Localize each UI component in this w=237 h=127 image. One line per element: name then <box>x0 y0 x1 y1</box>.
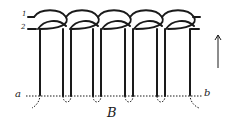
point-label-b: b <box>204 88 210 98</box>
vertical-cords <box>40 29 190 96</box>
strand-label-1: 1 <box>22 11 26 18</box>
up-arrow-icon <box>215 35 221 68</box>
point-label-a: a <box>15 89 21 99</box>
knot-diagram <box>0 0 237 127</box>
strand-label-2: 2 <box>21 24 25 31</box>
figure-label: B <box>107 106 117 119</box>
braid-loops <box>34 10 195 29</box>
